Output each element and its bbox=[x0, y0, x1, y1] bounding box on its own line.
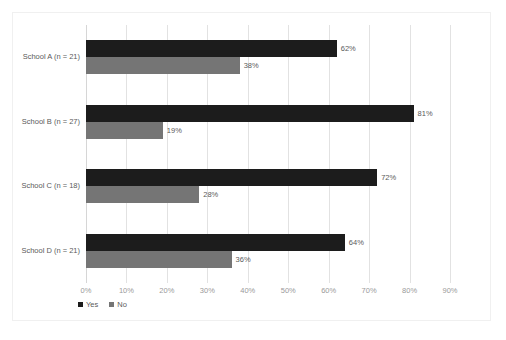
x-axis-tick-labels: 0%10%20%30%40%50%60%70%80%90% bbox=[86, 286, 450, 300]
bar-value-label-yes-1: 81% bbox=[418, 105, 433, 122]
category-label-3: School D (n = 21) bbox=[8, 246, 80, 255]
legend-swatch-icon-yes bbox=[78, 302, 83, 307]
x-tick-60%: 60% bbox=[321, 286, 336, 295]
bar-yes-2 bbox=[86, 169, 377, 186]
gridline-80% bbox=[410, 25, 411, 283]
bar-no-3 bbox=[86, 251, 232, 268]
bar-value-label-no-1: 19% bbox=[167, 122, 182, 139]
x-tick-50%: 50% bbox=[281, 286, 296, 295]
bar-yes-0 bbox=[86, 40, 337, 57]
category-label-0: School A (n = 21) bbox=[8, 52, 80, 61]
bar-yes-1 bbox=[86, 105, 414, 122]
legend-label-yes: Yes bbox=[86, 301, 98, 309]
x-tick-20%: 20% bbox=[159, 286, 174, 295]
bar-value-label-yes-0: 62% bbox=[341, 40, 356, 57]
plot-area: 62%38%81%19%72%28%64%36% bbox=[86, 25, 450, 283]
category-label-2: School C (n = 18) bbox=[8, 181, 80, 190]
bar-no-0 bbox=[86, 57, 240, 74]
x-tick-10%: 10% bbox=[119, 286, 134, 295]
bar-no-2 bbox=[86, 186, 199, 203]
legend-entry-yes[interactable]: Yes bbox=[78, 301, 98, 309]
x-tick-80%: 80% bbox=[402, 286, 417, 295]
category-label-1: School B (n = 27) bbox=[8, 117, 80, 126]
gridline-70% bbox=[369, 25, 370, 283]
x-tick-40%: 40% bbox=[240, 286, 255, 295]
legend-entry-no[interactable]: No bbox=[109, 301, 127, 309]
bar-value-label-yes-2: 72% bbox=[381, 169, 396, 186]
bar-value-label-no-0: 38% bbox=[244, 57, 259, 74]
bar-no-1 bbox=[86, 122, 163, 139]
legend-swatch-icon-no bbox=[109, 302, 114, 307]
bar-value-label-yes-3: 64% bbox=[349, 234, 364, 251]
x-tick-0%: 0% bbox=[81, 286, 92, 295]
bar-chart-figure: School A (n = 21)School B (n = 27)School… bbox=[0, 0, 506, 340]
bar-value-label-no-2: 28% bbox=[203, 186, 218, 203]
x-tick-70%: 70% bbox=[362, 286, 377, 295]
bar-yes-3 bbox=[86, 234, 345, 251]
bar-value-label-no-3: 36% bbox=[236, 251, 251, 268]
x-tick-30%: 30% bbox=[200, 286, 215, 295]
x-tick-90%: 90% bbox=[442, 286, 457, 295]
legend-label-no: No bbox=[117, 301, 127, 309]
chart-legend: YesNo bbox=[78, 301, 127, 309]
gridline-90% bbox=[450, 25, 451, 283]
category-axis-labels: School A (n = 21)School B (n = 27)School… bbox=[8, 25, 80, 283]
